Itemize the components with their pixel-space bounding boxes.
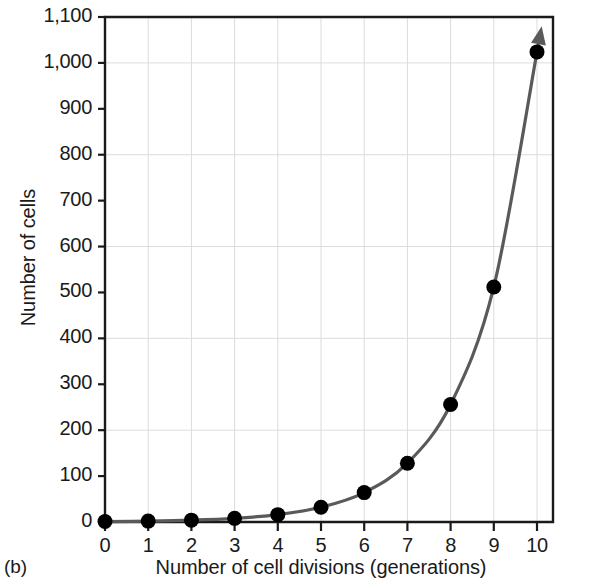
data-point-marker (400, 456, 415, 471)
y-axis-tick-label: 400 (60, 325, 92, 348)
plot-frame (105, 17, 553, 522)
y-axis-tick-label: 200 (60, 417, 92, 440)
y-axis-tick-label: 1,100 (43, 4, 92, 27)
horizontal-gridlines (105, 63, 553, 430)
data-point-marker (530, 44, 545, 59)
y-axis-tick-label: 500 (60, 279, 92, 302)
y-axis-tick-label: 100 (60, 463, 92, 486)
y-axis-tick-label: 800 (60, 142, 92, 165)
data-point-marker (98, 514, 113, 529)
data-point-marker (227, 511, 242, 526)
y-axis-tick-label: 0 (81, 509, 92, 532)
data-point-marker (357, 485, 372, 500)
x-axis-title: Number of cell divisions (generations) (105, 556, 537, 579)
data-point-marker (141, 514, 156, 529)
y-axis-tick-label: 900 (60, 96, 92, 119)
x-axis-tick-marks (105, 522, 537, 531)
x-axis-tick-label: 10 (507, 534, 567, 557)
figure-panel: 01002003004005006007008009001,0001,100 0… (0, 0, 589, 586)
y-axis-tick-label: 1,000 (43, 50, 92, 73)
data-point-marker (270, 507, 285, 522)
y-axis-tick-label: 700 (60, 188, 92, 211)
y-axis-title: Number of cells (17, 158, 40, 358)
panel-caption: (b) (4, 556, 27, 578)
data-point-marker (184, 513, 199, 528)
vertical-gridlines (148, 17, 537, 522)
data-point-marker (486, 279, 501, 294)
data-point-marker (314, 500, 329, 515)
y-axis-tick-label: 300 (60, 371, 92, 394)
data-point-marker (443, 397, 458, 412)
y-axis-tick-label: 600 (60, 234, 92, 257)
